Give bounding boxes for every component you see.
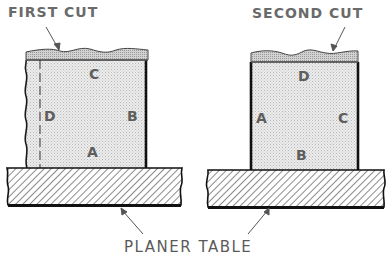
diagram: FIRST CUT SECOND CUT C D B A D A C B PLA…	[0, 0, 389, 265]
left-face-right: B	[127, 108, 138, 124]
planer-table-left	[7, 168, 182, 205]
first-cut-label: FIRST CUT	[8, 4, 98, 20]
planer-table-right	[206, 170, 385, 207]
right-face-right: C	[338, 110, 348, 126]
right-face-bottom: B	[296, 147, 307, 163]
right-face-top: D	[298, 68, 310, 84]
diagram-canvas	[0, 0, 389, 265]
left-face-left: D	[44, 108, 56, 124]
left-face-bottom: A	[87, 144, 98, 160]
second-cut-strip	[251, 50, 358, 62]
planer-table-label: PLANER TABLE	[124, 238, 252, 256]
left-face-top: C	[89, 66, 99, 82]
second-cut-label: SECOND CUT	[252, 5, 363, 21]
right-face-left: A	[256, 110, 267, 126]
first-cut-strip	[26, 48, 148, 60]
right-view	[206, 50, 385, 208]
